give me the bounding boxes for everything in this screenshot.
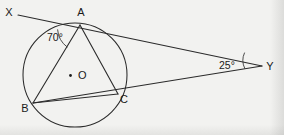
chord-ac (80, 25, 118, 94)
point-label-y: Y (266, 60, 274, 72)
point-label-a: A (77, 6, 85, 18)
geometry-figure: X A B C O Y 70° 25° (0, 0, 284, 135)
angle-arc-25 (243, 53, 245, 69)
circle-O (23, 23, 127, 127)
angle-label-25: 25° (219, 59, 235, 71)
chord-bc (33, 94, 118, 103)
point-label-b: B (21, 102, 28, 114)
diagram-canvas: X A B C O Y 70° 25° (0, 0, 284, 135)
point-label-c: C (120, 93, 128, 105)
point-label-o: O (78, 69, 87, 81)
secant-line-bcy (33, 66, 262, 103)
angle-label-70: 70° (47, 31, 63, 43)
point-label-x: X (5, 6, 13, 18)
centre-dot (69, 74, 72, 77)
